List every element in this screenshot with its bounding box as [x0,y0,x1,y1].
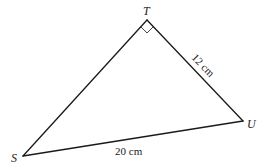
vertex-label-U: U [247,117,257,131]
side-ST [23,20,147,156]
triangle-diagram: T U S 12 cm 20 cm [0,0,260,168]
right-angle-marker-icon [141,27,153,33]
side-label-SU: 20 cm [115,145,143,157]
vertex-label-T: T [143,4,151,18]
side-TU [147,20,243,121]
vertex-label-S: S [11,151,17,165]
side-label-TU: 12 cm [190,51,218,79]
triangle-sides [23,20,243,156]
